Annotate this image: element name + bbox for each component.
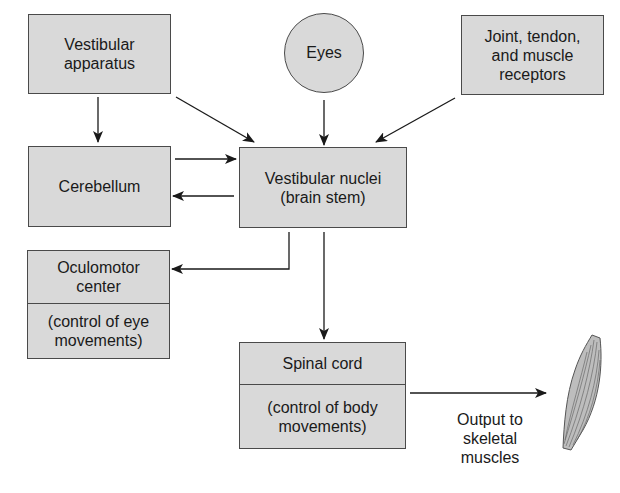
node-label: Vestibular apparatus [64, 35, 135, 73]
node-cerebellum: Cerebellum [28, 146, 171, 227]
arrow-vestibular-to-nuclei [176, 97, 254, 142]
node-subtitle: (control of eye movements) [48, 312, 149, 350]
node-oculomotor-center: Oculomotor center (control of eye moveme… [27, 250, 170, 359]
skeletal-muscle-icon [563, 335, 601, 450]
node-subtitle: (control of body movements) [267, 398, 377, 436]
node-label: Cerebellum [59, 177, 141, 196]
node-title: Spinal cord [282, 354, 362, 373]
node-joint-receptors: Joint, tendon, and muscle receptors [461, 15, 604, 95]
node-vestibular-apparatus: Vestibular apparatus [28, 14, 171, 94]
node-title: Oculomotor center [57, 258, 140, 296]
output-label: Output to skeletal muscles [435, 410, 545, 467]
node-label: Eyes [306, 44, 342, 62]
node-label: Joint, tendon, and muscle receptors [484, 27, 580, 84]
node-spinal-cord: Spinal cord (control of body movements) [239, 342, 406, 449]
node-vestibular-nuclei: Vestibular nuclei (brain stem) [239, 147, 407, 228]
node-label: Vestibular nuclei (brain stem) [265, 169, 382, 207]
arrow-nuclei-to-oculomotor [172, 232, 289, 269]
arrow-joint-to-nuclei [376, 98, 455, 142]
node-eyes: Eyes [284, 13, 364, 93]
